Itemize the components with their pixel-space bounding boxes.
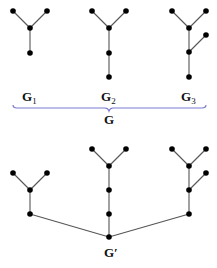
g2-node bbox=[89, 8, 95, 14]
g1-edge bbox=[30, 11, 47, 28]
g2-edge bbox=[92, 11, 109, 28]
g-prime-node bbox=[10, 170, 16, 176]
g-prime-node bbox=[186, 211, 192, 217]
g-prime-edge bbox=[30, 214, 109, 237]
g-prime-node bbox=[203, 170, 209, 176]
g-prime-edge bbox=[189, 173, 206, 190]
g3-edge bbox=[172, 11, 189, 28]
g-prime-node bbox=[44, 170, 50, 176]
g2-node bbox=[106, 25, 112, 31]
g-prime-node bbox=[106, 187, 112, 193]
g-prime-node bbox=[27, 187, 33, 193]
g3-node bbox=[186, 74, 192, 80]
g1-node bbox=[27, 25, 33, 31]
graph-diagram: G1 G2 G3 G G′ bbox=[0, 0, 217, 268]
g-prime-edge bbox=[13, 173, 30, 190]
g2-node bbox=[123, 8, 129, 14]
g-prime-node bbox=[27, 211, 33, 217]
label-g2: G2 bbox=[101, 89, 116, 106]
g2-node bbox=[106, 74, 112, 80]
g-prime-edge bbox=[30, 173, 47, 190]
g-prime-edge bbox=[109, 214, 189, 237]
g1-node bbox=[44, 8, 50, 14]
g3-node bbox=[186, 25, 192, 31]
g-prime-edge bbox=[92, 149, 109, 166]
grouping-brace bbox=[13, 105, 206, 111]
g-prime-node bbox=[106, 211, 112, 217]
g3-node bbox=[169, 8, 175, 14]
g3-node bbox=[203, 32, 209, 38]
label-g-prime: G′ bbox=[104, 245, 118, 260]
label-g: G bbox=[104, 112, 114, 127]
g3-node bbox=[186, 49, 192, 55]
g3-node bbox=[203, 8, 209, 14]
label-g3: G3 bbox=[181, 89, 196, 106]
g3-edge bbox=[189, 35, 206, 52]
g-prime-node bbox=[106, 163, 112, 169]
g-prime-node bbox=[106, 234, 112, 240]
g-prime-edge bbox=[109, 149, 126, 166]
g2-node bbox=[106, 50, 112, 56]
g-prime-node bbox=[123, 146, 129, 152]
g3-edge bbox=[189, 11, 206, 28]
g1-edge bbox=[13, 11, 30, 28]
g-prime-node bbox=[169, 146, 175, 152]
g-prime-node bbox=[203, 146, 209, 152]
g-prime-node bbox=[186, 187, 192, 193]
g-prime-node bbox=[89, 146, 95, 152]
label-g1: G1 bbox=[22, 89, 37, 106]
g1-node bbox=[27, 50, 33, 56]
g1-node bbox=[10, 8, 16, 14]
g-prime-node bbox=[186, 163, 192, 169]
g-prime-edge bbox=[189, 149, 206, 166]
g2-edge bbox=[109, 11, 126, 28]
g-prime-edge bbox=[172, 149, 189, 166]
